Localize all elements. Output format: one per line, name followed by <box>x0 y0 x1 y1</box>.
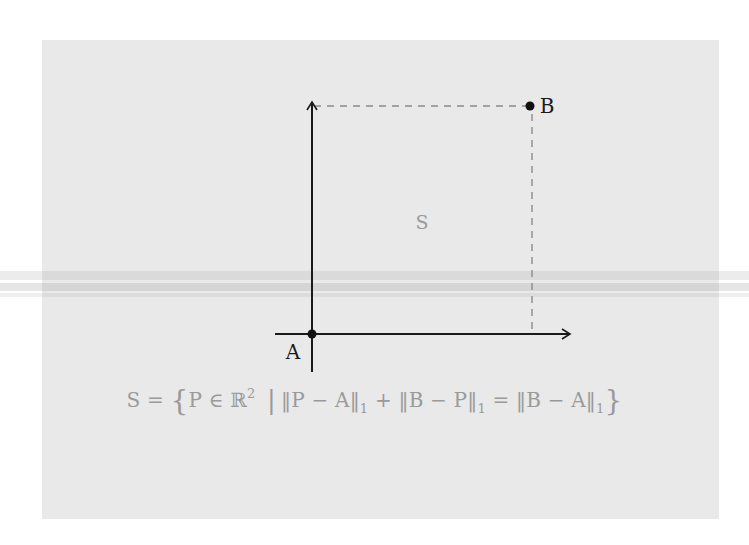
formula-term1-subscript: 1 <box>360 401 368 416</box>
set-definition-formula: S = {P ∈ ℝ2 |‖P − A‖1 + ‖B − P‖1 = ‖B − … <box>0 384 749 417</box>
formula-term-p-minus-a: ‖P − A‖ <box>281 388 360 412</box>
formula-separator: | <box>262 385 281 415</box>
formula-lhs: S <box>126 388 140 412</box>
formula-plus: + <box>375 388 392 412</box>
formula-open-brace: { <box>170 384 188 417</box>
point-b-dot <box>526 102 535 111</box>
formula-term-b-minus-p: ‖B − P‖ <box>398 388 477 412</box>
formula-element-exponent: 2 <box>247 386 255 401</box>
formula-element: P ∈ ℝ <box>188 388 247 412</box>
l1-region-diagram: A B S <box>0 0 749 545</box>
formula-equals-2: = <box>493 388 510 412</box>
point-a-label: A <box>285 340 301 364</box>
region-s-label: S <box>415 211 428 233</box>
formula-close-brace: } <box>605 384 623 417</box>
formula-equals: = <box>147 388 164 412</box>
formula-term-b-minus-a: ‖B − A‖ <box>516 388 596 412</box>
point-b-label: B <box>540 94 555 118</box>
formula-term3-subscript: 1 <box>596 401 604 416</box>
formula-term2-subscript: 1 <box>477 401 485 416</box>
point-a-dot <box>308 330 317 339</box>
